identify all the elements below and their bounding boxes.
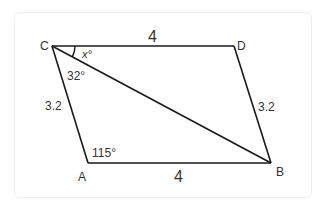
vertex-label-a: A	[78, 170, 86, 184]
side-label-ca: 3.2	[45, 99, 62, 113]
vertex-label-b: B	[276, 165, 284, 179]
angle-label-115: 115°	[92, 146, 116, 160]
angle-arc-x	[72, 46, 75, 57]
angle-label-x: x°	[81, 48, 93, 60]
vertex-label-c: C	[40, 39, 49, 53]
angle-label-32: 32°	[67, 69, 85, 83]
diagonal-cb	[52, 46, 271, 163]
vertex-label-d: D	[237, 39, 246, 53]
side-label-cd: 4	[148, 28, 157, 45]
side-label-ab: 4	[174, 168, 183, 185]
side-label-db: 3.2	[258, 100, 275, 114]
parallelogram-diagram: C D A B 4 4 3.2 3.2 x° 32° 115°	[0, 0, 324, 205]
